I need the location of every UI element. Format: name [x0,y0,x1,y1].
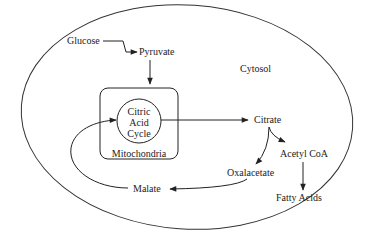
cytosol-label: Cytosol [240,63,271,74]
edge-glucose-pyruvate [103,41,137,52]
node-glucose: Glucose [67,35,100,46]
node-citrate: Citrate [254,114,282,125]
citrate-shuttle-diagram: Cytosol Glucose Pyruvate Citric Acid Cyc… [0,0,372,249]
edge-oxalacetate-malate [170,179,247,189]
mitochondria-label: Mitochondria [112,148,167,159]
node-pyruvate: Pyruvate [139,46,175,57]
edge-citrate-acetylcoa [269,127,285,142]
node-oxalacetate: Oxalacetate [227,167,275,178]
node-fatty-acids: Fatty Acids [276,192,322,203]
edge-citrate-oxalacetate [256,127,269,164]
cycle-label-3: Cycle [127,128,151,139]
cycle-label-1: Citric [128,106,151,117]
node-malate: Malate [133,183,161,194]
node-acetyl-coa: Acetyl CoA [280,148,329,159]
cycle-label-2: Acid [129,117,148,128]
diagram-canvas: Cytosol Glucose Pyruvate Citric Acid Cyc… [0,0,372,249]
